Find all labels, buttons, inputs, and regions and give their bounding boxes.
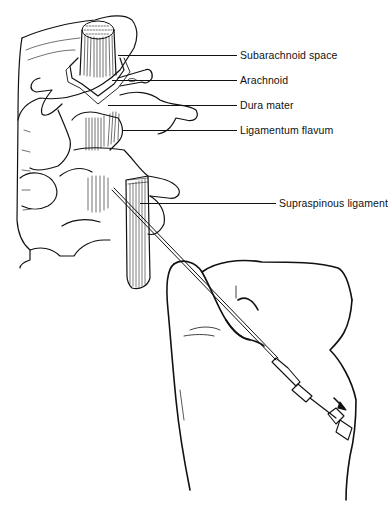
leader-line-subarachnoid-space [118, 55, 237, 56]
spinal-needle-drawing [112, 188, 352, 440]
leader-line-ligamentum-flavum [122, 130, 237, 131]
leader-line-supraspinous-ligament [140, 203, 276, 204]
label-ligamentum-flavum: Ligamentum flavum [240, 124, 333, 136]
label-supraspinous-ligament: Supraspinous ligament [279, 197, 388, 209]
hand-drawing [167, 260, 356, 500]
leader-line-arachnoid [112, 80, 237, 81]
vertebra-drawing [17, 16, 197, 289]
label-arachnoid: Arachnoid [240, 74, 288, 86]
leader-line-dura-mater [108, 105, 237, 106]
label-subarachnoid-space: Subarachnoid space [240, 49, 338, 61]
label-dura-mater: Dura mater [240, 99, 294, 111]
